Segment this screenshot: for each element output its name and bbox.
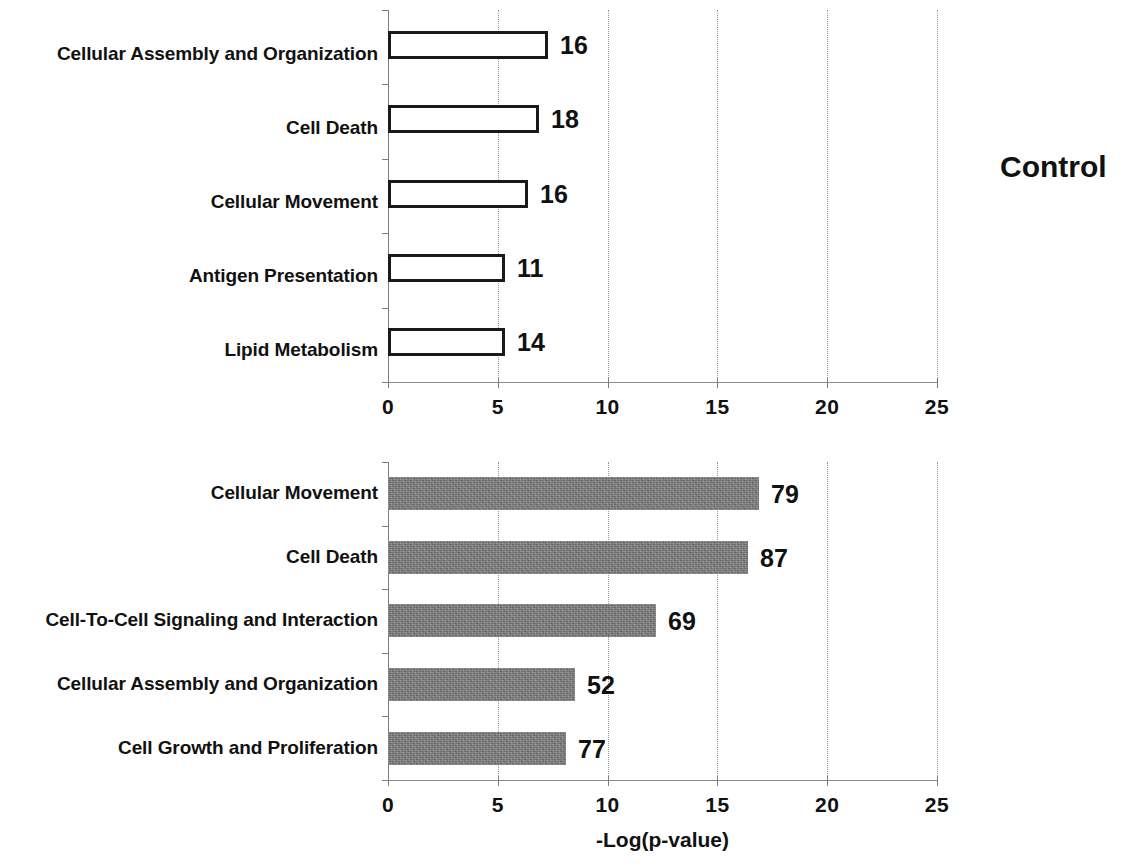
bar-row: 18 bbox=[388, 105, 937, 133]
value-axis-tick bbox=[937, 776, 938, 786]
value-axis-tick-label: 15 bbox=[705, 395, 729, 419]
category-label: Cell Death bbox=[286, 546, 378, 568]
bar-row: 14 bbox=[388, 328, 937, 356]
bar-row: 11 bbox=[388, 254, 937, 282]
value-axis-tick-label: 10 bbox=[595, 793, 619, 817]
category-axis-tick bbox=[382, 84, 389, 85]
bar-value-label: 52 bbox=[587, 670, 615, 699]
category-axis-tick bbox=[382, 159, 389, 160]
category-axis-tick bbox=[382, 10, 389, 11]
category-label: Cell Growth and Proliferation bbox=[118, 737, 378, 759]
value-axis-tick-label: 25 bbox=[925, 793, 949, 817]
bar-value-label: 14 bbox=[517, 328, 545, 357]
bar[interactable] bbox=[388, 732, 566, 765]
value-axis-tick bbox=[498, 378, 499, 388]
value-axis-tick-label: 15 bbox=[705, 793, 729, 817]
category-label: Cell-To-Cell Signaling and Interaction bbox=[45, 609, 378, 631]
value-axis-tick bbox=[717, 378, 718, 388]
category-label-group-bos: Cellular Movement Cell Death Cell-To-Cel… bbox=[0, 462, 378, 780]
bar-row: 16 bbox=[388, 180, 937, 208]
category-label: Cellular Movement bbox=[211, 482, 378, 504]
bar[interactable] bbox=[388, 604, 656, 637]
bar-row: 52 bbox=[388, 668, 937, 701]
bar[interactable] bbox=[388, 105, 539, 133]
category-label: Cellular Assembly and Organization bbox=[57, 43, 378, 65]
value-axis-tick bbox=[608, 378, 609, 388]
value-axis-tick bbox=[827, 776, 828, 786]
bar-row: 69 bbox=[388, 604, 937, 637]
plot-area-control: 16 18 16 11 14 0 5 10 15 bbox=[388, 10, 937, 382]
bar-value-label: 87 bbox=[760, 543, 788, 572]
bar[interactable] bbox=[388, 668, 575, 701]
category-axis-tick bbox=[382, 589, 389, 590]
value-axis-tick bbox=[608, 776, 609, 786]
bar[interactable] bbox=[388, 254, 505, 282]
bar-value-label: 11 bbox=[517, 254, 543, 283]
x-axis-caption: -Log(p-value) bbox=[388, 828, 937, 852]
category-label: Lipid Metabolism bbox=[224, 339, 378, 361]
bar-row: 79 bbox=[388, 477, 937, 510]
value-axis-tick-label: 25 bbox=[925, 395, 949, 419]
category-label: Cellular Assembly and Organization bbox=[57, 673, 378, 695]
value-axis-tick bbox=[827, 378, 828, 388]
bar-value-label: 18 bbox=[551, 105, 579, 134]
value-axis-control: 0 5 10 15 20 25 bbox=[388, 382, 937, 383]
category-label: Antigen Presentation bbox=[189, 265, 378, 287]
category-label: Cellular Movement bbox=[211, 191, 378, 213]
value-axis-tick bbox=[937, 378, 938, 388]
chart-panel-control: Cellular Assembly and Organization Cell … bbox=[0, 0, 1147, 430]
category-axis-tick bbox=[382, 716, 389, 717]
category-axis-tick bbox=[382, 526, 389, 527]
bar[interactable] bbox=[388, 180, 528, 208]
value-axis-tick-label: 5 bbox=[492, 395, 504, 419]
gridline-25 bbox=[937, 10, 938, 382]
panel-title-control: Control bbox=[1000, 150, 1107, 184]
value-axis-bos: 0 5 10 15 20 25 bbox=[388, 780, 937, 781]
value-axis-tick bbox=[498, 776, 499, 786]
value-axis-tick-label: 20 bbox=[815, 793, 839, 817]
bar[interactable] bbox=[388, 541, 748, 574]
plot-area-bos: 79 87 69 52 77 0 5 10 15 bbox=[388, 462, 937, 780]
category-axis-tick bbox=[382, 233, 389, 234]
bar[interactable] bbox=[388, 477, 759, 510]
value-axis-tick bbox=[388, 378, 389, 388]
category-axis-tick bbox=[382, 653, 389, 654]
value-axis-tick-label: 10 bbox=[595, 395, 619, 419]
bar[interactable] bbox=[388, 328, 505, 356]
category-label: Cell Death bbox=[286, 117, 378, 139]
bar-value-label: 16 bbox=[560, 31, 588, 60]
bar-row: 16 bbox=[388, 31, 937, 59]
bar-value-label: 16 bbox=[540, 180, 568, 209]
category-axis-tick bbox=[382, 462, 389, 463]
value-axis-tick-label: 5 bbox=[492, 793, 504, 817]
bar-row: 77 bbox=[388, 732, 937, 765]
category-label-group-control: Cellular Assembly and Organization Cell … bbox=[0, 10, 378, 382]
value-axis-tick bbox=[388, 776, 389, 786]
bar-row: 87 bbox=[388, 541, 937, 574]
bar-value-label: 69 bbox=[668, 606, 696, 635]
bar[interactable] bbox=[388, 31, 548, 59]
value-axis-tick-label: 20 bbox=[815, 395, 839, 419]
gridline-25 bbox=[937, 462, 938, 780]
bar-value-label: 77 bbox=[578, 734, 606, 763]
value-axis-tick bbox=[717, 776, 718, 786]
bar-value-label: 79 bbox=[771, 479, 799, 508]
value-axis-tick-label: 0 bbox=[382, 395, 394, 419]
category-axis-tick bbox=[382, 308, 389, 309]
value-axis-tick-label: 0 bbox=[382, 793, 394, 817]
